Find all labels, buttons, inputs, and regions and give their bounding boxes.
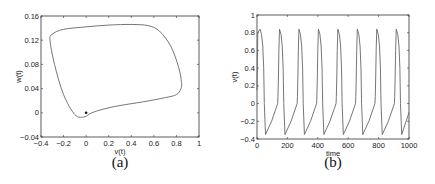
- y-tick-label: 0.6: [245, 46, 255, 55]
- chart-b-time-series: 02004006008001000−0.4−0.200.20.40.60.81t…: [230, 11, 417, 172]
- panel-caption: (a): [112, 154, 129, 171]
- x-tick-label: 0.4: [126, 139, 136, 148]
- x-tick-label: 0.6: [149, 139, 159, 148]
- y-tick-label: 0: [35, 108, 39, 117]
- x-tick-label: 800: [372, 141, 385, 150]
- y-tick-label: 0: [251, 99, 255, 108]
- limit-cycle-curve: [50, 24, 182, 117]
- x-tick-label: 0: [84, 139, 88, 148]
- y-tick-label: −0.4: [240, 135, 255, 144]
- y-tick-label: −0.2: [240, 117, 255, 126]
- figure: −0.4−0.200.20.40.60.81−0.0400.040.080.12…: [0, 0, 435, 184]
- y-tick-label: 0.2: [245, 81, 255, 90]
- x-tick-label: 200: [281, 141, 294, 150]
- x-tick-label: 600: [342, 141, 355, 150]
- y-tick-label: 0.04: [24, 84, 39, 93]
- x-tick-label: 0.8: [171, 139, 181, 148]
- y-tick-label: 0.08: [24, 60, 39, 69]
- y-tick-label: 1: [251, 11, 255, 20]
- y-axis-label: w(t): [14, 70, 23, 84]
- x-tick-label: 0.2: [103, 139, 113, 148]
- y-tick-label: 0.4: [245, 64, 255, 73]
- panel-caption: (b): [324, 154, 342, 171]
- x-tick-label: 1000: [401, 141, 418, 150]
- y-tick-label: 0.12: [24, 36, 39, 45]
- chart-a-phase-portrait: −0.4−0.200.20.40.60.81−0.0400.040.080.12…: [14, 12, 201, 172]
- y-tick-label: 0.16: [24, 12, 39, 21]
- y-tick-label: −0.04: [20, 133, 39, 142]
- plot-frame: [41, 16, 199, 137]
- x-tick-label: 400: [312, 141, 325, 150]
- x-tick-label: −0.2: [56, 139, 71, 148]
- voltage-trace: [257, 29, 409, 134]
- y-axis-label: v(t): [230, 71, 239, 82]
- initial-point-marker: [85, 112, 88, 115]
- x-tick-label: 0: [255, 141, 259, 150]
- x-tick-label: 1: [197, 139, 201, 148]
- y-tick-label: 0.8: [245, 28, 255, 37]
